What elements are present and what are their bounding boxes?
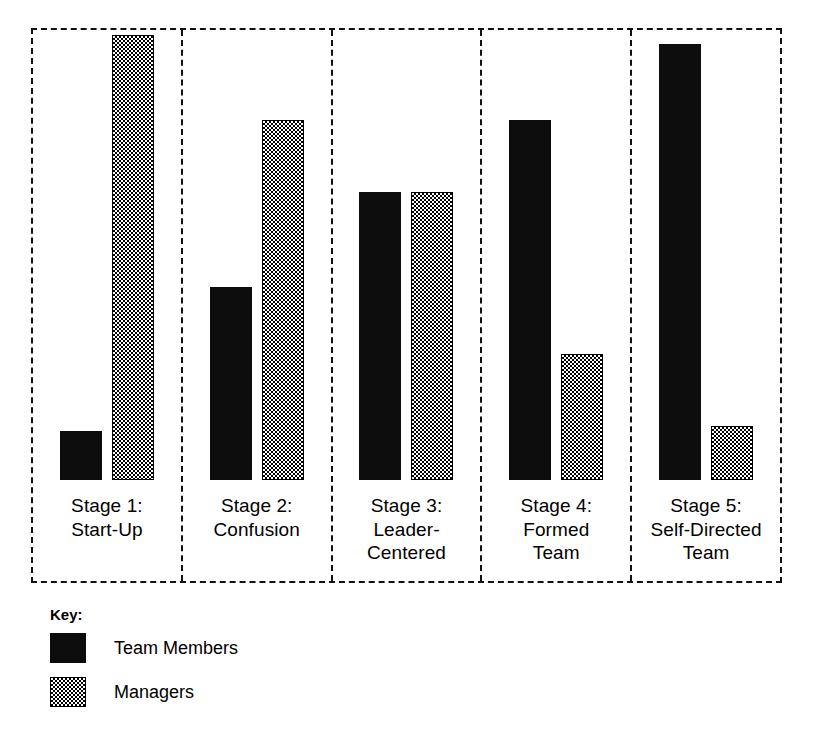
bar-team-members-stage-2 — [210, 287, 252, 481]
legend-label-managers: Managers — [114, 683, 194, 701]
stage-label-5: Stage 5: Self-Directed Team — [632, 480, 780, 581]
stage-panel-5: Stage 5: Self-Directed Team — [630, 30, 780, 581]
legend: Key: Team Members Managers — [50, 606, 450, 721]
stage-panel-3: Stage 3: Leader- Centered — [331, 30, 481, 581]
legend-entry-team-members: Team Members — [50, 633, 450, 663]
stage-panel-row: Stage 1: Start-Up Stage 2: Confusion Sta… — [33, 30, 780, 581]
bar-team-members-stage-4 — [509, 120, 551, 480]
bar-managers-stage-2 — [262, 120, 304, 480]
plot-area-4 — [482, 30, 630, 480]
stage-panel-1: Stage 1: Start-Up — [33, 30, 181, 581]
solid-black-swatch-icon — [50, 633, 86, 663]
bar-managers-stage-3 — [411, 192, 453, 480]
bar-team-members-stage-1 — [60, 431, 102, 481]
chart-frame: Stage 1: Start-Up Stage 2: Confusion Sta… — [31, 28, 782, 583]
bar-team-members-stage-5 — [659, 44, 701, 481]
bar-team-members-stage-3 — [359, 192, 401, 480]
plot-area-5 — [632, 30, 780, 480]
bar-managers-stage-1 — [112, 35, 154, 481]
stage-label-2: Stage 2: Confusion — [183, 480, 331, 581]
plot-area-3 — [333, 30, 481, 480]
stippled-gray-swatch-icon — [50, 677, 86, 707]
bar-managers-stage-5 — [711, 426, 753, 480]
plot-area-1 — [33, 30, 181, 480]
plot-area-2 — [183, 30, 331, 480]
legend-entry-managers: Managers — [50, 677, 450, 707]
bar-managers-stage-4 — [561, 354, 603, 480]
stage-panel-2: Stage 2: Confusion — [181, 30, 331, 581]
legend-title: Key: — [50, 606, 450, 623]
stage-panel-4: Stage 4: Formed Team — [480, 30, 630, 581]
stage-label-4: Stage 4: Formed Team — [482, 480, 630, 581]
stage-label-3: Stage 3: Leader- Centered — [333, 480, 481, 581]
legend-label-team-members: Team Members — [114, 639, 238, 657]
stage-label-1: Stage 1: Start-Up — [33, 480, 181, 581]
